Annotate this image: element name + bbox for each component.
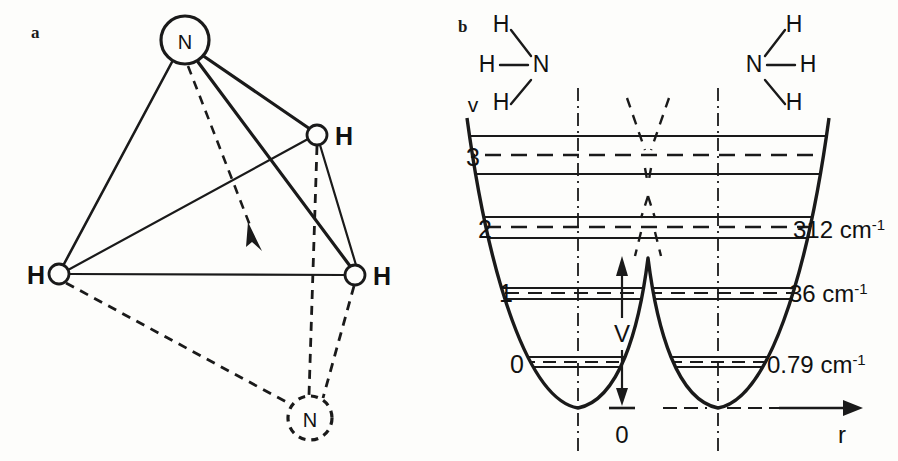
- structure-right-bond-bot: [765, 80, 785, 104]
- funnel-line-mid-right: [648, 168, 651, 185]
- hydrogen-upper-right-label: H: [335, 122, 353, 150]
- structure-left-h-mid: H: [479, 51, 496, 77]
- structure-left-bond-bot: [511, 80, 531, 104]
- funnel-line-lower-right: [648, 196, 655, 218]
- energy-level-v2: [459, 217, 839, 238]
- structure-right-bond-top: [765, 30, 785, 56]
- structure-right-n: N: [746, 51, 763, 77]
- splitting-label-v2: 312 cm-1: [793, 216, 885, 243]
- dashed-bond-h-left-to-n-inverted: [66, 283, 290, 404]
- atom-group: N N H H H: [27, 16, 391, 440]
- nitrogen-top-label: N: [178, 31, 192, 53]
- structure-left-h-top: H: [493, 11, 510, 37]
- v-label-1: 1: [499, 279, 513, 307]
- edge-h-left-to-h-lower-right: [69, 274, 345, 275]
- structure-left-n: N: [533, 51, 550, 77]
- hydrogen-left-label: H: [27, 261, 45, 289]
- ammonia-structure-right: N H H H: [746, 11, 817, 115]
- panel-b-drawing: H H H N N H H H: [449, 0, 898, 461]
- r-axis-label: r: [838, 421, 846, 448]
- hydrogen-lower-right-circle: [345, 265, 365, 285]
- panel-a-drawing: N N H H H: [0, 0, 449, 461]
- ammonia-structure-left: H H H N: [479, 11, 550, 115]
- v-axis-label: v: [468, 93, 479, 116]
- hydrogen-left-circle: [49, 264, 69, 284]
- splitting-value-v1: 36 cm: [789, 280, 854, 307]
- figure-root: a: [0, 0, 898, 461]
- r-axis: r: [779, 400, 863, 448]
- barrier-funnel-lines: [627, 98, 669, 256]
- barrier-arrow-head-up: [616, 256, 628, 276]
- structure-left-h-bot: H: [493, 89, 510, 115]
- panel-a-molecular-geometry: a: [0, 0, 449, 461]
- bond-n-to-h-left: [64, 62, 172, 264]
- bond-n-to-h-lower-right: [198, 62, 350, 266]
- splitting-exponent-v1: -1: [854, 280, 867, 297]
- funnel-line-base-right: [655, 232, 661, 256]
- energy-level-v1-left: [459, 288, 648, 299]
- funnel-line-upper-left: [627, 98, 645, 150]
- structure-left-bond-top: [511, 30, 531, 56]
- energy-level-v3: [459, 136, 839, 174]
- hydrogen-upper-right-circle: [307, 125, 327, 145]
- barrier-arrow-head-down: [616, 388, 628, 406]
- hydrogen-lower-right-label: H: [373, 262, 391, 290]
- splitting-value-v2: 312 cm: [793, 216, 872, 243]
- v-label-2: 2: [478, 215, 492, 243]
- funnel-line-lower-left: [641, 196, 648, 218]
- energy-zero-label: 0: [615, 421, 628, 448]
- structure-right-h-bot: H: [786, 89, 803, 115]
- structure-right-h-top: H: [786, 11, 803, 37]
- splitting-exponent-v0: -1: [852, 351, 865, 368]
- inversion-arrow-head: [246, 222, 262, 251]
- dashed-bond-h-lower-right-to-n-inverted: [323, 286, 354, 398]
- structure-right-h-mid: H: [800, 51, 817, 77]
- funnel-line-mid-left: [645, 168, 648, 185]
- inversion-arrow: [188, 66, 262, 251]
- solid-bond-group: [64, 55, 356, 275]
- edge-h-left-to-h-upper-right: [68, 139, 308, 270]
- edge-h-upper-right-to-h-lower-right: [320, 145, 356, 265]
- splitting-label-v0: 0.79 cm-1: [767, 351, 866, 378]
- funnel-line-upper-right: [651, 98, 669, 150]
- r-axis-arrowhead: [843, 400, 863, 416]
- bond-n-to-h-upper-right: [202, 55, 310, 129]
- splitting-label-v1: 36 cm-1: [789, 280, 868, 307]
- funnel-line-base-left: [635, 232, 641, 256]
- dashed-bond-h-upper-right-to-n-inverted: [309, 146, 317, 395]
- v-label-0: 0: [510, 350, 524, 378]
- nitrogen-inverted-label: N: [303, 409, 317, 431]
- splitting-annotations: 312 cm-1 36 cm-1 0.79 cm-1: [767, 216, 885, 378]
- panel-b-potential-diagram: b H H H N: [449, 0, 898, 461]
- barrier-height-label: V: [614, 320, 630, 347]
- splitting-exponent-v2: -1: [872, 216, 885, 233]
- splitting-value-v0: 0.79 cm: [767, 351, 852, 378]
- v-label-3: 3: [466, 143, 480, 171]
